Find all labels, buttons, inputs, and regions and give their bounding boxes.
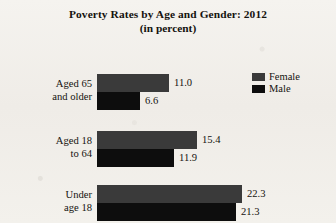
bar-male-under-age-18 [97, 203, 236, 221]
category-label-aged-18-to-64: Aged 18 to 64 [0, 134, 92, 160]
bar-female-under-age-18 [97, 185, 242, 203]
bar-value-female-aged-18-to-64: 15.4 [202, 134, 221, 146]
bar-value-male-aged-18-to-64: 11.9 [179, 152, 197, 164]
poverty-rates-bar-chart: Poverty Rates by Age and Gender: 2012 (i… [0, 0, 336, 223]
bar-male-aged-18-to-64 [97, 149, 174, 167]
category-label-under-age-18: Under age 18 [0, 188, 92, 214]
bar-female-aged-65-and-older [97, 74, 169, 92]
plot-area: Aged 65 and older 11.0 6.6 Aged 18 to 64… [0, 0, 336, 223]
bar-female-aged-18-to-64 [97, 131, 197, 149]
bar-value-male-aged-65-and-older: 6.6 [145, 95, 158, 107]
bar-male-aged-65-and-older [97, 92, 140, 110]
bar-value-female-under-age-18: 22.3 [247, 188, 266, 200]
bar-value-female-aged-65-and-older: 11.0 [174, 77, 192, 89]
bar-value-male-under-age-18: 21.3 [241, 206, 260, 218]
category-label-aged-65-and-older: Aged 65 and older [0, 77, 92, 103]
